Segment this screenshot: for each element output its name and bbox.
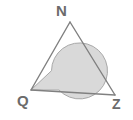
- geometry-figure: N Q Z: [0, 0, 133, 120]
- vertex-label-q: Q: [17, 93, 29, 108]
- vertex-label-n: N: [56, 3, 67, 18]
- vertex-label-z: Z: [112, 97, 121, 111]
